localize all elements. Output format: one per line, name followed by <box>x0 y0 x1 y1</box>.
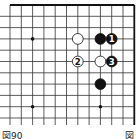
black-stone <box>95 79 106 90</box>
go-board: 123 <box>0 0 136 130</box>
white-stone <box>72 34 83 45</box>
move-number-label: 1 <box>109 34 115 44</box>
move-number-label: 3 <box>109 57 115 67</box>
black-stone <box>95 34 106 45</box>
star-point <box>31 37 35 41</box>
diagram-caption-right: 図 <box>125 131 134 139</box>
diagram-caption: 図90 <box>2 131 22 139</box>
star-point <box>31 105 35 109</box>
move-number-label: 2 <box>75 57 81 67</box>
star-point <box>99 105 103 109</box>
white-stone <box>95 56 106 67</box>
